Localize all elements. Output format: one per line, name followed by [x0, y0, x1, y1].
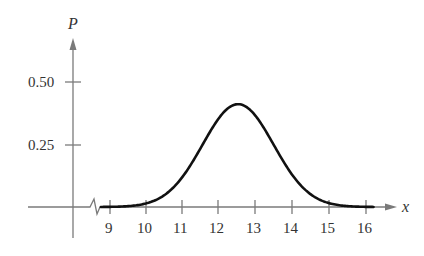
x-tick-label-12: 12 [209, 220, 224, 236]
x-axis: x 9 10 11 12 13 14 15 16 [28, 198, 409, 236]
axis-break-icon [86, 199, 100, 214]
chart: P 0.50 0.25 x 9 10 11 12 13 14 15 16 [0, 0, 424, 256]
x-tick-label-16: 16 [357, 220, 373, 236]
y-axis: P 0.50 0.25 [28, 15, 81, 238]
x-tick-label-9: 9 [105, 220, 113, 236]
y-tick-label-050: 0.50 [28, 74, 54, 90]
x-tick-label-14: 14 [283, 220, 299, 236]
x-tick-label-13: 13 [246, 220, 261, 236]
normal-curve [101, 104, 374, 207]
y-axis-arrow-icon [70, 38, 77, 50]
x-axis-arrow-icon [385, 204, 397, 211]
x-tick-label-10: 10 [137, 220, 152, 236]
x-axis-label: x [401, 198, 409, 215]
x-tick-label-15: 15 [320, 220, 335, 236]
y-axis-label: P [67, 15, 78, 32]
y-tick-label-025: 0.25 [28, 137, 54, 153]
x-tick-label-11: 11 [173, 220, 187, 236]
